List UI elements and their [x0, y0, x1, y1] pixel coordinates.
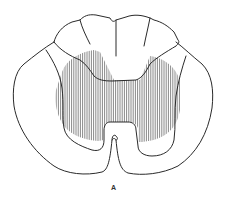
right-lobe-divider — [144, 18, 150, 46]
figure-label: A — [0, 184, 227, 191]
left-lobe-divider — [80, 20, 90, 44]
hatched-region — [54, 48, 184, 146]
cross-section-diagram — [0, 0, 227, 205]
